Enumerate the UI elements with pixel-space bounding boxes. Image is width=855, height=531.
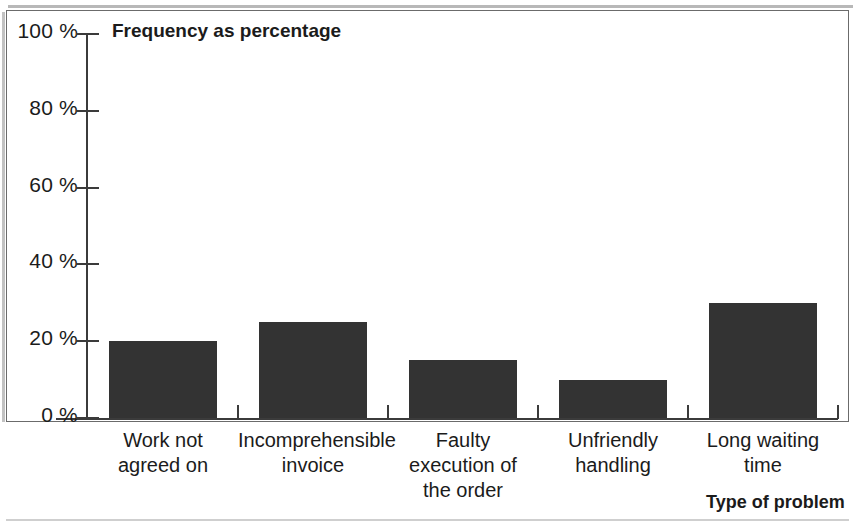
- bar: [109, 341, 217, 418]
- x-category-label-line: Faulty: [388, 428, 538, 453]
- bar: [709, 303, 817, 418]
- bar: [259, 322, 367, 418]
- bars-layer: [0, 0, 855, 418]
- plot-area: Frequency as percentage 0 %20 %40 %60 %8…: [0, 0, 855, 531]
- x-category-label-line: Unfriendly: [538, 428, 688, 453]
- x-category-label-line: agreed on: [88, 453, 238, 478]
- x-category-label-line: Incomprehensible: [238, 428, 388, 453]
- x-category-label-line: Long waiting: [688, 428, 838, 453]
- x-category-label-line: invoice: [238, 453, 388, 478]
- x-category-label-line: time: [688, 453, 838, 478]
- x-category-label-line: execution of: [388, 453, 538, 478]
- bar-chart-figure: Frequency as percentage 0 %20 %40 %60 %8…: [0, 0, 855, 531]
- x-category-label-line: the order: [388, 478, 538, 503]
- bar: [409, 360, 517, 418]
- x-category-label: Long waitingtime: [688, 428, 838, 478]
- x-category-label: Work notagreed on: [88, 428, 238, 478]
- x-category-label-line: Work not: [88, 428, 238, 453]
- x-category-label: Incomprehensibleinvoice: [238, 428, 388, 478]
- x-category-label: Faultyexecution ofthe order: [388, 428, 538, 503]
- x-axis-caption: Type of problem: [706, 492, 845, 513]
- x-category-label-line: handling: [538, 453, 688, 478]
- x-axis-line: [56, 418, 838, 420]
- bar: [559, 380, 667, 418]
- x-category-label: Unfriendlyhandling: [538, 428, 688, 478]
